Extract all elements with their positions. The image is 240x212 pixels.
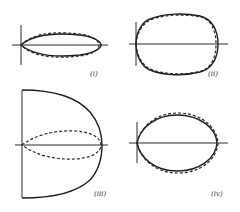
panel-ii-label: (ii) [208, 71, 218, 78]
panel-iii-label: (iii) [94, 191, 106, 198]
panel-iv-label: (iv) [211, 191, 223, 198]
panel-iv [129, 113, 228, 173]
polar-diagram-figure: (i) (ii) (iii) (iv) [0, 0, 240, 212]
panel-iii [15, 90, 108, 198]
panel-ii [129, 14, 228, 75]
panel-iii-solid-semicircle [22, 90, 102, 198]
panel-i [12, 25, 108, 65]
panel-i-label: (i) [90, 71, 98, 78]
